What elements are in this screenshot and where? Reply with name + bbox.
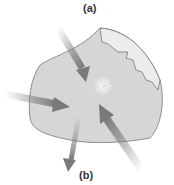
label-a: (a) [83, 2, 96, 14]
cell-diagram: (a) (b) [0, 0, 174, 185]
label-b: (b) [79, 169, 93, 181]
cell-illustration [0, 0, 174, 185]
